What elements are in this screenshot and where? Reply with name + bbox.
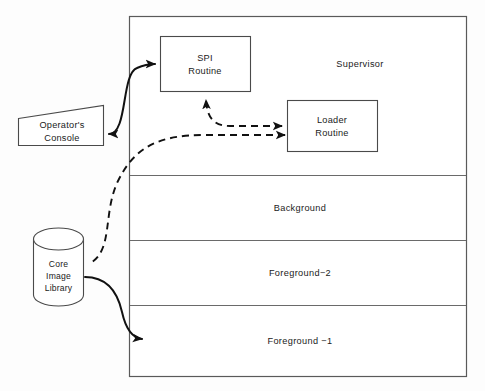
loader-routine-label-line1: Loader xyxy=(317,115,347,125)
operators-console-label-line2: Console xyxy=(44,133,79,143)
core-image-library-top xyxy=(34,228,84,250)
region-label-foreground-1: Foreground −1 xyxy=(267,336,332,346)
diagram-canvas: Supervisor Background Foreground−2 Foreg… xyxy=(0,0,485,391)
operators-console[interactable]: Operator's Console xyxy=(19,106,104,146)
box-loader-routine[interactable]: Loader Routine xyxy=(288,101,378,152)
region-label-background: Background xyxy=(274,203,327,213)
core-image-library[interactable]: Core Image Library xyxy=(34,228,84,306)
operators-console-label-line1: Operator's xyxy=(39,120,84,130)
core-image-library-label-line1: Core xyxy=(49,259,68,269)
spi-routine-outline xyxy=(161,37,251,92)
region-label-foreground-2: Foreground−2 xyxy=(269,268,331,278)
spi-routine-label-line2: Routine xyxy=(188,66,221,76)
box-spi-routine[interactable]: SPI Routine xyxy=(161,37,251,92)
core-image-library-label-line2: Image xyxy=(46,271,71,281)
system-structure-diagram: Supervisor Background Foreground−2 Foreg… xyxy=(0,0,485,391)
spi-routine-label-line1: SPI xyxy=(197,53,213,63)
region-label-supervisor: Supervisor xyxy=(336,59,383,69)
loader-routine-label-line2: Routine xyxy=(315,128,348,138)
loader-routine-outline xyxy=(288,101,378,152)
core-image-library-label-line3: Library xyxy=(45,283,73,293)
